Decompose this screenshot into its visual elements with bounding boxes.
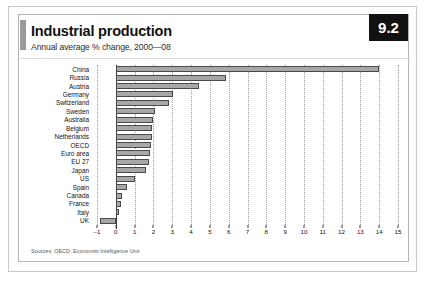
- category-label: OECD: [71, 142, 89, 149]
- category-label: Russia: [69, 74, 89, 81]
- bar: [100, 218, 116, 224]
- tick-label: 5: [208, 228, 211, 235]
- gridline-10: [304, 65, 305, 225]
- page-title: Industrial production: [31, 23, 172, 39]
- bar: [116, 176, 135, 182]
- chart-card: 9.2 Industrial production Annual average…: [18, 14, 409, 262]
- bar: [116, 91, 173, 97]
- tick-label: –1: [94, 228, 101, 235]
- bar: [116, 201, 122, 207]
- bar: [116, 134, 152, 140]
- bar: [116, 117, 154, 123]
- category-label: EU 27: [71, 158, 89, 165]
- category-label: Germany: [63, 91, 89, 98]
- category-label: Spain: [73, 184, 89, 191]
- bar: [116, 159, 149, 165]
- tick-label: 9: [283, 228, 286, 235]
- tick-label: 7: [246, 228, 249, 235]
- category-label: France: [69, 200, 89, 207]
- category-label: Belgium: [66, 125, 89, 132]
- chart-subtitle: Annual average % change, 2000—08: [31, 42, 171, 52]
- title-spine-accent: [20, 20, 26, 50]
- gridline-12: [342, 65, 343, 225]
- bars-canvas: [97, 65, 398, 225]
- bar: [116, 83, 199, 89]
- tick-label: 10: [300, 228, 307, 235]
- gridline-9: [285, 65, 286, 225]
- bar: [116, 100, 170, 106]
- tick-label: 2: [152, 228, 155, 235]
- bar: [116, 150, 150, 156]
- bar: [116, 209, 119, 215]
- gridline-14: [379, 65, 380, 225]
- tick-label: 4: [189, 228, 192, 235]
- bar: [116, 75, 226, 81]
- category-label: Netherlands: [55, 133, 89, 140]
- category-label: Australia: [64, 116, 89, 123]
- bar: [116, 184, 127, 190]
- category-axis-labels: ChinaRussiaAustriaGermanySwitzerlandSwed…: [31, 65, 93, 225]
- plot-area: ChinaRussiaAustriaGermanySwitzerlandSwed…: [31, 65, 398, 243]
- tick-label: 3: [171, 228, 174, 235]
- tick-label: 11: [320, 228, 326, 235]
- category-label: China: [72, 66, 89, 73]
- category-label: Sweden: [66, 108, 89, 115]
- bar: [116, 108, 156, 114]
- category-label: Austria: [69, 83, 89, 90]
- tick-label: 12: [338, 228, 345, 235]
- tick-label: 13: [357, 228, 364, 235]
- bar: [116, 66, 379, 72]
- category-label: US: [80, 175, 89, 182]
- bar: [116, 125, 153, 131]
- gridline-6: [229, 65, 230, 225]
- figure-page: 9.2 Industrial production Annual average…: [0, 0, 427, 286]
- header-divider: [19, 58, 410, 59]
- gridline-11: [323, 65, 324, 225]
- gridline--1: [97, 65, 98, 225]
- source-note: Sources: OECD; Economist Intelligence Un…: [31, 248, 139, 254]
- tick-label: 8: [265, 228, 268, 235]
- category-label: Canada: [67, 192, 89, 199]
- category-label: Euro area: [61, 150, 89, 157]
- tick-label: 14: [376, 228, 383, 235]
- figure-number-badge: 9.2: [369, 14, 408, 41]
- gridline-5: [210, 65, 211, 225]
- bar: [116, 167, 146, 173]
- bar: [116, 142, 151, 148]
- bar: [116, 193, 123, 199]
- category-label: Italy: [77, 209, 89, 216]
- gridline-13: [360, 65, 361, 225]
- gridline-8: [266, 65, 267, 225]
- tick-label: 15: [395, 228, 402, 235]
- gridline-15: [398, 65, 399, 225]
- category-label: Switzerland: [56, 99, 89, 106]
- tick-label: 6: [227, 228, 230, 235]
- value-axis-labels: –10123456789101112131415: [97, 228, 398, 242]
- tick-label: 0: [114, 228, 117, 235]
- tick-label: 1: [133, 228, 136, 235]
- category-label: Japan: [72, 167, 89, 174]
- category-label: UK: [80, 217, 89, 224]
- gridline-7: [248, 65, 249, 225]
